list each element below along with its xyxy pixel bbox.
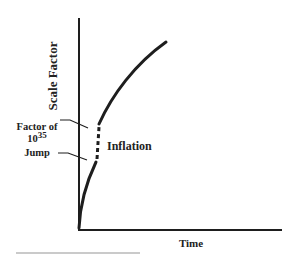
annotation-leader-top [60, 120, 88, 128]
y-axis-label: Scale Factor [45, 41, 60, 110]
curve-pre-inflation [79, 162, 96, 228]
diagram-svg: Scale Factor Factor of 1035 Jump Inflati… [0, 0, 289, 254]
annotation-leader-bottom [58, 153, 87, 160]
curve-post-inflation [99, 42, 166, 124]
inflation-label: Inflation [107, 139, 152, 153]
annotation-exponent: 35 [38, 130, 48, 140]
annotation-line2: 1035 [27, 130, 47, 144]
annotation-base: 10 [27, 133, 38, 144]
inflation-diagram: Scale Factor Factor of 1035 Jump Inflati… [0, 0, 289, 254]
curve-inflation-jump [97, 127, 99, 159]
annotation-line3: Jump [24, 147, 50, 158]
x-axis-label: Time [179, 237, 203, 249]
